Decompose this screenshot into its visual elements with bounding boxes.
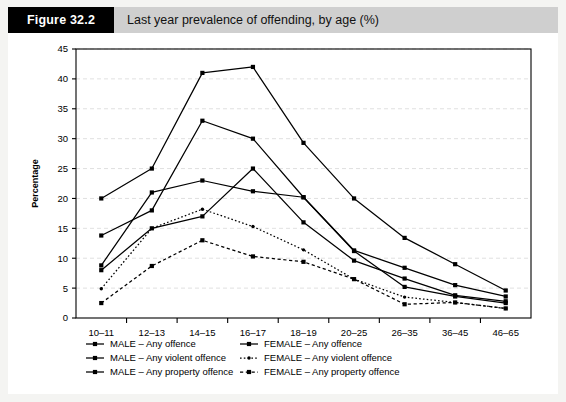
- data-point: [251, 166, 255, 170]
- data-point: [403, 236, 407, 240]
- y-tick-label: 45: [57, 43, 68, 54]
- data-point: [453, 300, 457, 304]
- data-point: [504, 288, 508, 292]
- y-tick-label: 10: [57, 253, 68, 264]
- legend-item: MALE – Any violent offence: [86, 352, 226, 363]
- data-point: [403, 285, 407, 289]
- legend-label: FEMALE – Any offence: [264, 338, 362, 349]
- legend-marker: [93, 342, 97, 346]
- data-point: [251, 137, 255, 141]
- data-point: [403, 295, 406, 298]
- data-point: [99, 268, 103, 272]
- data-point: [504, 294, 508, 298]
- data-point: [301, 220, 305, 224]
- data-point: [301, 141, 305, 145]
- data-point: [150, 166, 154, 170]
- series-line: [101, 121, 505, 303]
- y-tick-label: 20: [57, 193, 68, 204]
- axes: [76, 49, 531, 318]
- data-point: [99, 301, 103, 305]
- y-tick-label: 15: [57, 223, 68, 234]
- data-point: [352, 248, 356, 252]
- data-point: [251, 189, 255, 193]
- chart-card: 051015202530354045 10–1112–1314–1516–171…: [8, 33, 558, 394]
- legend-label: MALE – Any property offence: [110, 366, 233, 377]
- series-1: [99, 119, 508, 306]
- data-point: [504, 299, 508, 303]
- x-tick-label: 46–65: [493, 327, 519, 338]
- data-point: [100, 287, 103, 290]
- data-point: [301, 260, 305, 264]
- data-point: [301, 195, 305, 199]
- legend-item: MALE – Any offence: [86, 338, 196, 349]
- line-chart: 051015202530354045 10–1112–1314–1516–171…: [8, 33, 558, 394]
- data-point: [150, 264, 154, 268]
- legend-marker: [247, 356, 250, 359]
- data-point: [200, 178, 204, 182]
- data-point: [200, 71, 204, 75]
- y-axis-ticks: 051015202530354045: [57, 43, 76, 323]
- figure-page: Figure 32.2 Last year prevalence of offe…: [0, 0, 566, 402]
- data-point: [200, 119, 204, 123]
- series-line: [101, 67, 505, 291]
- y-tick-label: 25: [57, 163, 68, 174]
- figure-caption: Last year prevalence of offending, by ag…: [114, 7, 379, 33]
- data-point: [150, 190, 154, 194]
- x-tick-label: 16–17: [240, 327, 266, 338]
- x-tick-label: 10–11: [88, 327, 114, 338]
- data-point: [403, 302, 407, 306]
- y-tick-label: 30: [57, 133, 68, 144]
- legend-label: MALE – Any violent offence: [110, 352, 226, 363]
- x-tick-label: 18–19: [290, 327, 316, 338]
- data-point: [99, 233, 103, 237]
- series-3: [99, 166, 508, 303]
- x-axis-ticks: 10–1112–1314–1516–1718–1920–2526–3536–45…: [88, 318, 519, 338]
- y-axis-label: Percentage: [30, 159, 40, 208]
- legend-marker: [93, 356, 97, 360]
- data-point: [453, 262, 457, 266]
- data-point: [352, 277, 356, 281]
- legend-marker: [93, 370, 97, 374]
- legend-label: FEMALE – Any property offence: [264, 366, 400, 377]
- data-point: [99, 263, 103, 267]
- y-tick-label: 0: [63, 312, 68, 323]
- figure-header: Figure 32.2 Last year prevalence of offe…: [8, 7, 558, 33]
- data-point: [251, 65, 255, 69]
- data-point: [150, 227, 153, 230]
- data-point: [302, 248, 305, 251]
- chart-plot-area: 051015202530354045 10–1112–1314–1516–171…: [8, 33, 558, 394]
- x-tick-label: 12–13: [139, 327, 165, 338]
- data-point: [352, 196, 356, 200]
- data-point: [251, 254, 255, 258]
- x-tick-label: 20–25: [341, 327, 367, 338]
- data-point: [200, 214, 204, 218]
- data-point: [504, 306, 508, 310]
- y-tick-label: 35: [57, 103, 68, 114]
- data-point: [453, 283, 457, 287]
- x-tick-label: 26–35: [391, 327, 417, 338]
- legend-label: MALE – Any offence: [110, 338, 196, 349]
- data-point: [99, 196, 103, 200]
- data-point: [150, 208, 154, 212]
- data-point: [453, 293, 457, 297]
- data-point: [403, 266, 407, 270]
- legend-marker: [247, 342, 251, 346]
- legend-marker: [247, 370, 251, 374]
- legend-item: MALE – Any property offence: [86, 366, 233, 377]
- data-point: [352, 259, 356, 263]
- data-point: [201, 208, 204, 211]
- y-axis-title: Percentage: [30, 159, 40, 208]
- y-tick-label: 40: [57, 73, 68, 84]
- data-point: [200, 238, 204, 242]
- legend-item: FEMALE – Any property offence: [240, 366, 400, 377]
- y-tick-label: 5: [63, 283, 68, 294]
- figure-number: Figure 32.2: [8, 7, 114, 33]
- data-series: [99, 65, 508, 311]
- x-tick-label: 36–45: [442, 327, 468, 338]
- legend-item: FEMALE – Any offence: [240, 338, 362, 349]
- series-2: [99, 178, 508, 298]
- legend-item: FEMALE – Any violent offence: [240, 352, 392, 363]
- data-point: [403, 276, 407, 280]
- legend-label: FEMALE – Any violent offence: [264, 352, 392, 363]
- x-tick-label: 14–15: [189, 327, 215, 338]
